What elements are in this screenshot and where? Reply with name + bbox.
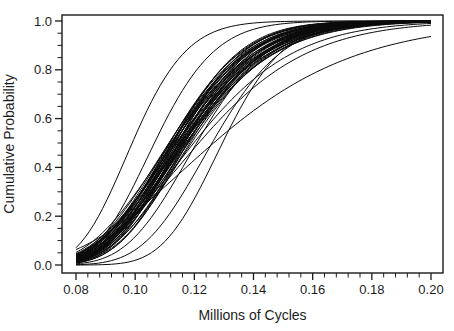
- cdf-chart-canvas: 0.080.100.120.140.160.180.200.00.20.40.6…: [0, 0, 454, 331]
- x-axis-title: Millions of Cycles: [198, 307, 306, 323]
- y-tick-label: 0.4: [34, 160, 52, 175]
- x-tick-label: 0.08: [63, 282, 88, 297]
- x-tick-label: 0.16: [300, 282, 325, 297]
- y-tick-label: 0.6: [34, 111, 52, 126]
- y-tick-label: 1.0: [34, 14, 52, 29]
- y-axis-title: Cumulative Probability: [1, 74, 17, 213]
- x-tick-label: 0.10: [123, 282, 148, 297]
- x-tick-label: 0.12: [182, 282, 207, 297]
- bootstrap-cdf-figure: 0.080.100.120.140.160.180.200.00.20.40.6…: [0, 0, 454, 331]
- y-tick-label: 0.0: [34, 258, 52, 273]
- x-tick-label: 0.14: [241, 282, 266, 297]
- y-tick-label: 0.8: [34, 62, 52, 77]
- cdf-curves: [76, 21, 431, 265]
- x-tick-label: 0.20: [418, 282, 443, 297]
- y-tick-label: 0.2: [34, 209, 52, 224]
- x-tick-label: 0.18: [359, 282, 384, 297]
